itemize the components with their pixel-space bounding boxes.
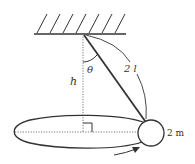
angle-label: θ [87,64,93,75]
pendulum-string [84,35,145,121]
length-arc [86,35,146,119]
conical-pendulum-diagram: θ h 2 l 2 m [0,0,195,164]
ceiling-hatching [37,14,125,33]
height-label: h [70,75,77,88]
pendulum-bob [138,120,164,146]
angle-arc [83,55,97,62]
string-length-label: 2 l [123,63,137,74]
mass-label: 2 m [167,128,185,138]
right-angle-marker [83,123,92,132]
rotation-arrow [114,149,136,155]
